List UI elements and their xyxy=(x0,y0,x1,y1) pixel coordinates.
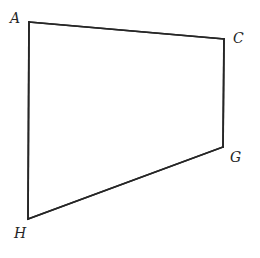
edge-c-g xyxy=(223,39,224,147)
quadrilateral-svg xyxy=(0,0,260,258)
vertex-label-a: A xyxy=(10,11,20,25)
geometry-figure: A C G H xyxy=(0,0,260,258)
edge-h-a xyxy=(28,22,29,219)
vertex-label-c: C xyxy=(233,31,244,45)
vertex-label-g: G xyxy=(230,150,241,164)
vertex-label-h: H xyxy=(14,226,27,240)
